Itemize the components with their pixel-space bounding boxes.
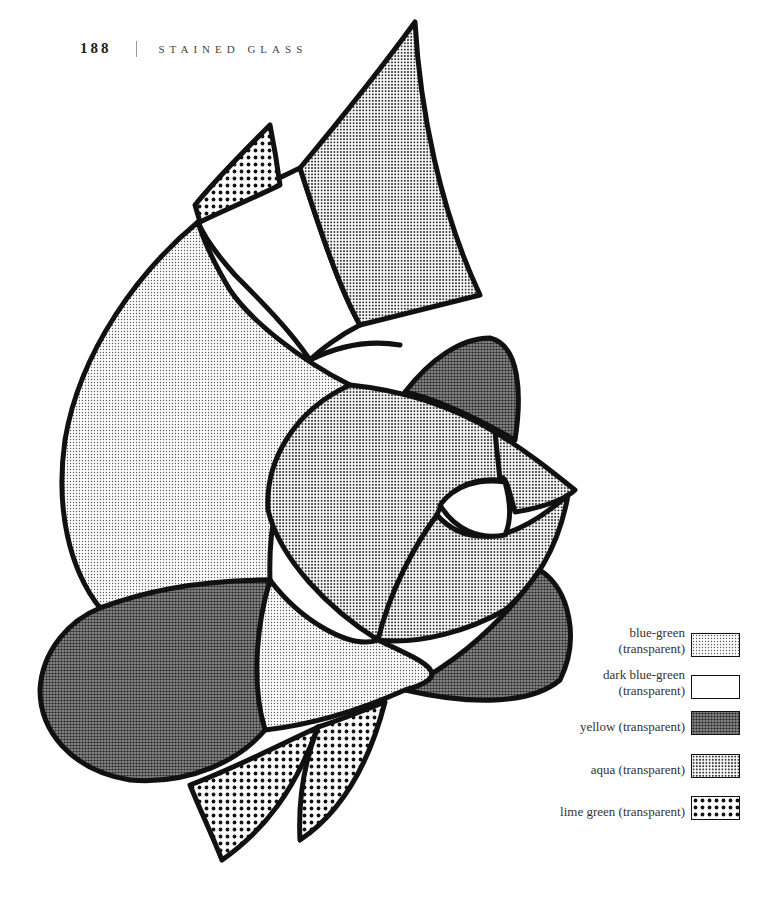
legend-label: aqua (transparent) (591, 762, 685, 778)
legend-item-lime-green: lime green (transparent) (560, 796, 740, 820)
legend-label: lime green (transparent) (560, 804, 685, 820)
legend-label-line1: blue-green (619, 625, 685, 641)
swatch-fine-dots (691, 633, 740, 657)
legend-label: blue-green (transparent) (619, 625, 685, 657)
legend-label-line1: dark blue-green (603, 667, 685, 683)
legend-label: dark blue-green (transparent) (603, 667, 685, 699)
legend-item-yellow: yellow (transparent) (580, 711, 740, 735)
legend-label-line2: (transparent) (619, 641, 685, 657)
legend-item-aqua: aqua (transparent) (591, 754, 740, 778)
swatch-medium-dots (691, 754, 740, 778)
swatch-large-dots (691, 796, 740, 820)
legend-item-blue-green: blue-green (transparent) (619, 625, 740, 657)
legend-label-line2: aqua (transparent) (591, 762, 685, 778)
swatch-dense-dots (691, 711, 740, 735)
legend-label-line2: lime green (transparent) (560, 804, 685, 820)
large-lower-left-petal (40, 580, 270, 781)
legend-label-line2: yellow (transparent) (580, 719, 685, 735)
legend-item-dark-blue-green: dark blue-green (transparent) (603, 667, 740, 699)
swatch-none (691, 675, 740, 699)
legend-label: yellow (transparent) (580, 719, 685, 735)
legend-label-line2: (transparent) (603, 683, 685, 699)
